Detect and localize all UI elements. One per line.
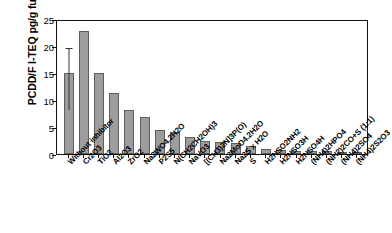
bar-cell: [152, 21, 167, 154]
y-tick-mark: [52, 155, 56, 156]
bar: [140, 117, 150, 154]
y-tick-label: 10: [0, 96, 54, 107]
bar-cell: [122, 21, 137, 154]
y-tick-label: 20: [0, 42, 54, 53]
bar-cell: [61, 21, 76, 154]
y-tick-label: 25: [0, 15, 54, 26]
bar-cell: [137, 21, 152, 154]
y-tick-label: 5: [0, 123, 54, 134]
bar-cell: [274, 21, 289, 154]
bar-cell: [183, 21, 198, 154]
error-bar-cap: [65, 48, 72, 49]
bar-cell: [107, 21, 122, 154]
bar-cell: [319, 21, 334, 154]
x-tick-label: S: [248, 156, 258, 166]
error-bar-line: [68, 48, 69, 110]
bar-cell: [213, 21, 228, 154]
bar-cell: [304, 21, 319, 154]
bar: [79, 31, 89, 154]
bar-cell: [76, 21, 91, 154]
y-tick-label: 15: [0, 69, 54, 80]
y-tick-label: 0: [0, 150, 54, 161]
